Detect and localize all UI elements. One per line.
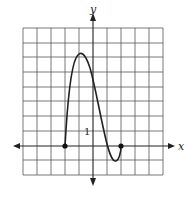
function-graph: x y 1: [0, 0, 191, 197]
right-endpoint: [118, 143, 123, 148]
y-axis-label: y: [89, 3, 97, 16]
unit-label: 1: [84, 126, 90, 137]
left-endpoint: [62, 143, 67, 148]
x-axis-left-arrow-icon: [13, 143, 20, 149]
y-axis-down-arrow-icon: [90, 178, 96, 186]
x-axis-label: x: [178, 140, 185, 153]
x-axis-right-arrow-icon: [168, 143, 175, 149]
